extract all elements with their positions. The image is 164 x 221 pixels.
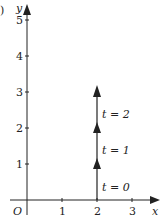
- x-ticks: 1 2 3: [59, 198, 136, 218]
- time-label-1: t = 1: [102, 144, 130, 157]
- origin-label: O: [13, 205, 22, 218]
- time-label-0: t = 0: [102, 181, 130, 194]
- time-label-2: t = 2: [102, 108, 130, 121]
- arrowhead-icon-1: [93, 158, 101, 169]
- y-axis-arrow-icon: [23, 4, 31, 15]
- x-tick-2: 2: [94, 205, 101, 218]
- x-tick-1: 1: [59, 205, 66, 218]
- arrowhead-icon-2: [93, 122, 101, 133]
- y-tick-4: 4: [16, 50, 23, 63]
- panel-label: ): [0, 4, 4, 17]
- y-tick-2: 2: [16, 122, 23, 135]
- motion-diagram: ) x y O 1 2 3 1 2 3 4 5 t = 0 t = 1 t = …: [0, 0, 164, 221]
- arrowhead-icon-3: [93, 85, 101, 97]
- x-axis-arrow-icon: [150, 196, 160, 204]
- y-tick-1: 1: [16, 158, 23, 171]
- y-tick-5: 5: [16, 14, 23, 27]
- y-tick-3: 3: [16, 86, 23, 99]
- x-axis-label: x: [152, 205, 159, 218]
- x-tick-3: 3: [129, 205, 136, 218]
